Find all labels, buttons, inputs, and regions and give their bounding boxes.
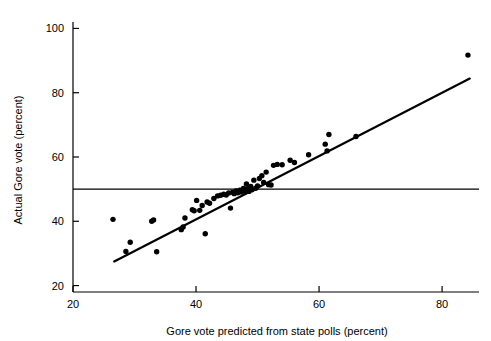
data-point (154, 249, 159, 254)
data-point (180, 224, 185, 229)
y-axis-tick-labels: 20406080100 (46, 22, 64, 291)
y-axis-ticks (73, 28, 79, 285)
data-point (197, 208, 202, 213)
y-tick-label-20: 20 (52, 280, 64, 292)
data-point (292, 160, 297, 165)
data-point (110, 217, 115, 222)
data-point (263, 169, 268, 174)
data-point (251, 177, 256, 182)
data-point (306, 152, 311, 157)
data-point (353, 134, 358, 139)
data-point (279, 162, 284, 167)
data-point (191, 208, 196, 213)
y-axis-title: Actual Gore vote (percent) (12, 95, 24, 224)
data-point (261, 180, 266, 185)
x-axis-title: Gore vote predicted from state polls (pe… (166, 325, 387, 337)
data-point (228, 205, 233, 210)
data-point (203, 231, 208, 236)
x-axis-tick-labels: 20406080 (67, 298, 448, 310)
x-tick-label-60: 60 (313, 298, 325, 310)
x-tick-label-20: 20 (67, 298, 79, 310)
data-point (151, 217, 156, 222)
data-point (324, 148, 329, 153)
scatter-plot-figure: 20406080100 20406080 Gore vote predicted… (0, 0, 491, 341)
data-point (128, 239, 133, 244)
data-point (268, 182, 273, 187)
data-point (199, 203, 204, 208)
x-axis-ticks (73, 286, 442, 292)
data-point (194, 198, 199, 203)
data-point (275, 162, 280, 167)
data-point (182, 215, 187, 220)
scatter-data-points (110, 52, 470, 254)
y-tick-label-100: 100 (46, 22, 64, 34)
data-point (323, 141, 328, 146)
data-point (326, 132, 331, 137)
fitted-regression-line (114, 79, 470, 262)
y-tick-label-60: 60 (52, 151, 64, 163)
plot-canvas: 20406080100 20406080 Gore vote predicted… (0, 0, 491, 341)
data-point (255, 183, 260, 188)
x-tick-label-40: 40 (190, 298, 202, 310)
y-tick-label-40: 40 (52, 215, 64, 227)
data-point (207, 201, 212, 206)
x-tick-label-80: 80 (436, 298, 448, 310)
data-point (259, 173, 264, 178)
y-tick-label-80: 80 (52, 87, 64, 99)
data-point (123, 249, 128, 254)
data-point (465, 52, 470, 57)
